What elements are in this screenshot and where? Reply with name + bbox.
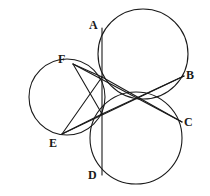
left-circle [29, 59, 105, 135]
figure-canvas [0, 0, 210, 196]
circles-group [29, 9, 188, 184]
geometry-figure: ABCDEF [0, 0, 210, 196]
segment-E-P [62, 77, 102, 134]
segments-group [62, 28, 184, 175]
point-label-a: A [89, 19, 98, 31]
point-label-d: D [88, 169, 97, 181]
point-label-b: B [186, 69, 194, 81]
top-right-circle [98, 9, 188, 99]
point-label-e: E [49, 137, 57, 149]
point-label-f: F [58, 53, 65, 65]
segment-E-B [62, 76, 184, 134]
point-label-c: C [184, 116, 193, 128]
